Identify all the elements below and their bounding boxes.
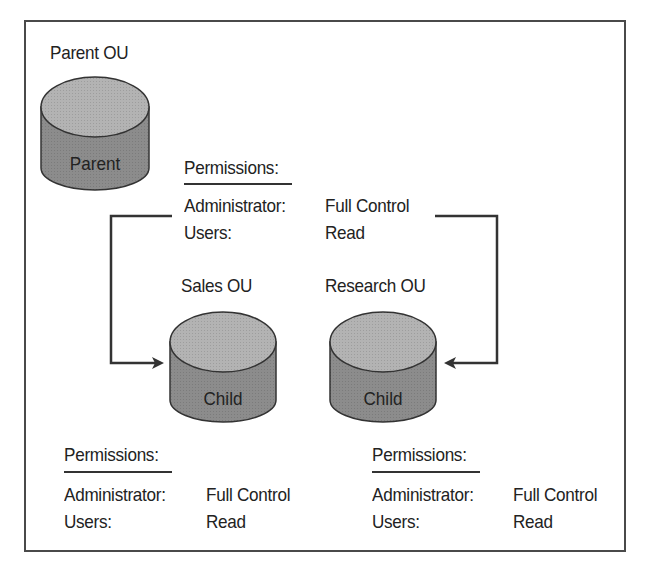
research-principal-users: Users:	[372, 511, 420, 533]
research-permissions-underline	[372, 471, 480, 473]
inherit-arrow-to-research-icon	[435, 216, 497, 369]
parent-ou-title: Parent OU	[50, 42, 128, 64]
sales-right-users: Read	[206, 511, 246, 533]
research-right-users: Read	[513, 511, 553, 533]
inherit-arrow-to-sales-icon	[111, 216, 172, 369]
inherited-principal-users: Users:	[184, 222, 232, 244]
research-ou-title: Research OU	[325, 275, 426, 297]
research-right-admin: Full Control	[513, 484, 597, 506]
sales-permissions-underline	[64, 471, 172, 473]
sales-permissions-heading: Permissions:	[64, 444, 159, 466]
sales-right-admin: Full Control	[206, 484, 290, 506]
sales-ou-title: Sales OU	[181, 275, 252, 297]
inherited-principal-admin: Administrator:	[184, 195, 286, 217]
sales-principal-admin: Administrator:	[64, 484, 166, 506]
inherited-permissions-underline	[184, 183, 292, 185]
research-principal-admin: Administrator:	[372, 484, 474, 506]
research-permissions-heading: Permissions:	[372, 444, 467, 466]
sales-principal-users: Users:	[64, 511, 112, 533]
parent-cylinder-label: Parent	[50, 153, 140, 175]
inherited-right-admin: Full Control	[325, 195, 409, 217]
research-cylinder-label: Child	[338, 388, 428, 410]
inherited-right-users: Read	[325, 222, 365, 244]
sales-cylinder-label: Child	[178, 388, 268, 410]
inherited-permissions-heading: Permissions:	[184, 157, 279, 179]
